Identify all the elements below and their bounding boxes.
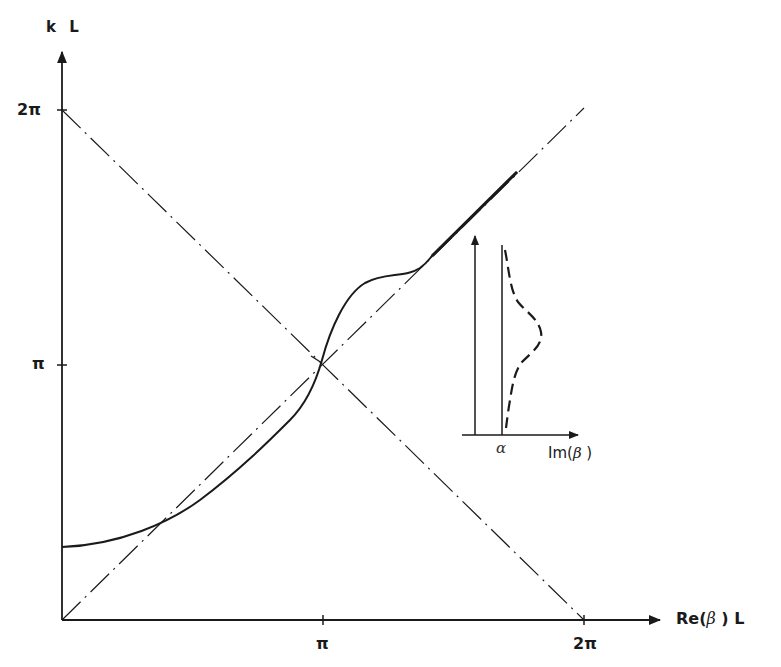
x-tick-label-pi: π	[316, 636, 329, 652]
inset-x-label-suffix: )	[582, 444, 593, 462]
x-axis-label-prefix: Re(	[676, 609, 706, 628]
crossing-marker	[311, 356, 322, 363]
inset-x-label-beta: β	[573, 444, 582, 462]
y-axis-label: k L	[46, 20, 83, 35]
x-tick-label-2pi: 2π	[573, 636, 597, 652]
anti-diagonal-line	[62, 110, 584, 620]
inset-imaginary-curve	[505, 250, 541, 428]
inset-x-axis-label: Im(β )	[548, 446, 592, 461]
dispersion-diagram	[0, 0, 781, 667]
inset-alpha-label: α	[496, 441, 506, 456]
x-axis-label: Re(β ) L	[676, 611, 744, 627]
inset-plot	[462, 236, 578, 435]
y-tick-label-pi: π	[32, 356, 45, 372]
x-axis-label-suffix: ) L	[716, 609, 745, 628]
dispersion-curve	[62, 172, 517, 547]
figure-canvas: k L 2π π π 2π Re(β ) L α Im(β )	[0, 0, 781, 667]
y-tick-label-2pi: 2π	[17, 102, 41, 118]
x-axis-label-beta: β	[706, 609, 715, 628]
inset-x-label-prefix: Im(	[548, 444, 573, 462]
